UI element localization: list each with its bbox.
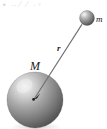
artifact-fragment: ⁄ (26, 0, 27, 9)
page-bleed-artifacts: ▪ ·· ⁄ ⁄ · ◦ (0, 0, 107, 10)
small-mass-body (80, 11, 95, 26)
radius-vector-label: r (57, 44, 61, 53)
artifact-fragment: ▪ (3, 0, 6, 9)
artifact-fragment: · (33, 1, 36, 10)
artifact-fragment: ·· (11, 1, 16, 10)
artifact-fragment: ⁄ (19, 0, 20, 9)
artifact-fragment: ◦ (38, 0, 41, 9)
large-mass-body (7, 72, 63, 129)
small-mass-label: m (96, 15, 103, 24)
figure-canvas (0, 0, 107, 129)
gravitation-figure: ▪ ·· ⁄ ⁄ · ◦ M m r (0, 0, 107, 129)
large-mass-label: M (30, 60, 40, 72)
vector-origin-dot (32, 98, 35, 101)
